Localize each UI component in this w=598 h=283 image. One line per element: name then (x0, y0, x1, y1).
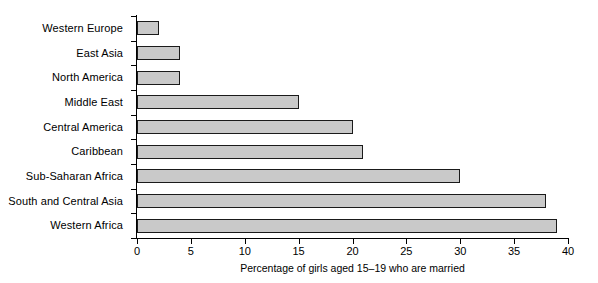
y-axis-category-labels: Western EuropeEast AsiaNorth AmericaMidd… (0, 16, 128, 238)
x-tick-mark (406, 239, 407, 244)
bar-row (137, 139, 568, 164)
bar-row (137, 164, 568, 189)
x-tick-label: 35 (508, 245, 520, 258)
y-axis-label: Caribbean (0, 139, 128, 164)
bar (137, 145, 363, 159)
bar-row (137, 213, 568, 238)
x-tick-label: 20 (346, 245, 358, 258)
x-tick-mark (299, 239, 300, 244)
x-tick-mark (191, 239, 192, 244)
bar (137, 21, 159, 35)
bar-series (137, 16, 568, 238)
x-axis-title: Percentage of girls aged 15–19 who are m… (137, 262, 568, 275)
x-tick-mark (137, 239, 138, 244)
bar-row (137, 16, 568, 41)
x-tick-mark (245, 239, 246, 244)
y-axis-label: East Asia (0, 41, 128, 66)
x-axis-tick-labels: 0510152025303540 (137, 245, 568, 259)
bar-row (137, 189, 568, 214)
bar (137, 169, 460, 183)
x-tick-label: 25 (400, 245, 412, 258)
x-tick-mark (568, 239, 569, 244)
y-axis-label: Sub-Saharan Africa (0, 164, 128, 189)
x-tick-label: 10 (239, 245, 251, 258)
bar (137, 71, 180, 85)
y-axis-label: Middle East (0, 90, 128, 115)
y-axis-label: Western Europe (0, 16, 128, 41)
bar-chart: Western EuropeEast AsiaNorth AmericaMidd… (0, 0, 598, 283)
bar (137, 120, 353, 134)
bar-row (137, 115, 568, 140)
bar (137, 194, 546, 208)
x-tick-label: 40 (562, 245, 574, 258)
bar (137, 95, 299, 109)
bar-row (137, 90, 568, 115)
x-tick-mark (460, 239, 461, 244)
y-axis-label: Central America (0, 115, 128, 140)
x-tick-label: 30 (454, 245, 466, 258)
bar (137, 46, 180, 60)
x-tick-mark (514, 239, 515, 244)
bar (137, 219, 557, 233)
bar-row (137, 65, 568, 90)
x-tick-label: 5 (188, 245, 194, 258)
x-tick-mark (353, 239, 354, 244)
y-axis-label: Western Africa (0, 213, 128, 238)
y-axis-label: North America (0, 65, 128, 90)
x-tick-label: 0 (134, 245, 140, 258)
x-axis-tick-marks (137, 239, 568, 244)
bar-row (137, 41, 568, 66)
y-axis-label: South and Central Asia (0, 189, 128, 214)
x-tick-label: 15 (293, 245, 305, 258)
